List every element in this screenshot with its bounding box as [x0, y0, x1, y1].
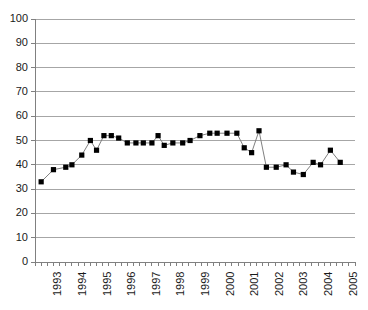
series-data-markers [39, 128, 343, 184]
x-axis-tick-label: 1997 [151, 272, 162, 296]
x-axis-tick-label: 2000 [225, 272, 236, 296]
grid-lines [35, 19, 355, 262]
y-axis-tick-label: 20 [2, 207, 28, 218]
x-axis-tick-label: 2001 [249, 272, 260, 296]
x-axis-tick-label: 1998 [175, 272, 186, 296]
y-axis-tick-label: 40 [2, 159, 28, 170]
y-axis-tick-label: 80 [2, 62, 28, 73]
x-axis-tick-label: 1994 [77, 272, 88, 296]
y-axis-tick-label: 70 [2, 86, 28, 97]
y-axis-tick-label: 100 [2, 13, 28, 24]
x-axis-tick-label: 1993 [52, 272, 63, 296]
x-axis-tick-label: 2004 [323, 272, 334, 296]
x-axis-ticks [35, 262, 355, 266]
y-axis-ticks [31, 19, 35, 262]
x-axis-tick-label: 2002 [274, 272, 285, 296]
y-axis-tick-label: 0 [2, 256, 28, 267]
x-axis-tick-label: 1996 [126, 272, 137, 296]
x-axis-tick-label: 1999 [200, 272, 211, 296]
y-axis-tick-label: 50 [2, 135, 28, 146]
y-axis-tick-label: 90 [2, 37, 28, 48]
x-axis-tick-label: 2003 [298, 272, 309, 296]
line-chart-plot [0, 0, 368, 310]
x-axis-tick-label: 2005 [348, 272, 359, 296]
x-axis-tick-label: 1995 [102, 272, 113, 296]
y-axis-tick-label: 60 [2, 110, 28, 121]
y-axis-tick-label: 10 [2, 232, 28, 243]
chart-container: 0102030405060708090100 19931994199519961… [0, 0, 368, 310]
y-axis-tick-label: 30 [2, 183, 28, 194]
